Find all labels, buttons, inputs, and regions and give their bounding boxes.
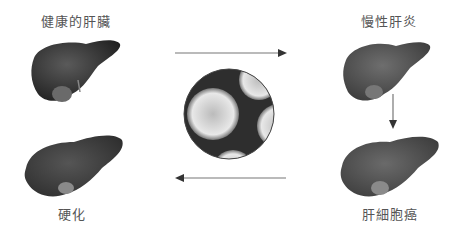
- label-cirrhosis: 硬化: [58, 204, 86, 223]
- virus-micrograph-image: [183, 68, 275, 160]
- hcc-liver-image: [338, 128, 442, 200]
- healthy-liver-image: [28, 36, 124, 106]
- label-chronic-hepatitis: 慢性肝炎: [361, 11, 417, 30]
- cirrhosis-liver-image: [22, 128, 126, 200]
- arrow-left: [174, 173, 288, 183]
- arrow-right: [174, 48, 288, 58]
- label-healthy-liver: 健康的肝臟: [41, 11, 111, 30]
- label-hcc: 肝細胞癌: [362, 204, 418, 223]
- arrow-down: [388, 94, 398, 130]
